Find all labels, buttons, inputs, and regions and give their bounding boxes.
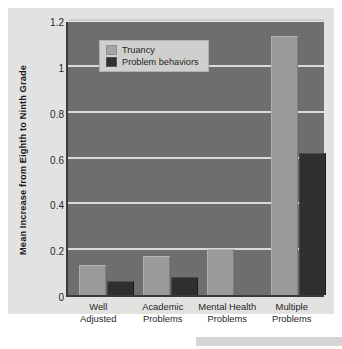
gridline [68,19,324,21]
y-tick-label: 0.6 [18,154,64,165]
legend-label-truancy: Truancy [122,45,155,55]
legend-label-problem-behaviors: Problem behaviors [122,57,199,67]
x-tick-label: AcademicProblems [131,301,196,324]
legend: Truancy Problem behaviors [99,40,209,72]
bar-truancy [143,256,170,295]
bar-group [260,22,324,295]
x-tick-label-line: Academic [131,301,196,313]
legend-item-truancy: Truancy [106,45,199,55]
y-tick-label: 0.2 [18,246,64,257]
legend-swatch-icon-problem-behaviors [106,57,117,67]
bar-problem-behaviors [107,281,134,295]
bar-truancy [271,36,298,295]
plot-area: Truancy Problem behaviors [66,22,324,297]
x-tick-label-line: Multiple [260,301,325,313]
y-tick-label: 0 [18,292,64,303]
x-tick-label: MultipleProblems [260,301,325,324]
x-axis-tick-labels: WellAdjustedAcademicProblemsMental Healt… [66,301,324,324]
chart-figure: Mean Increase from Eighth to Ninth Grade… [0,0,342,349]
y-tick-label: 1 [18,62,64,73]
bar-problem-behaviors [171,277,198,295]
y-tick-label: 1.2 [18,17,64,28]
legend-item-problem-behaviors: Problem behaviors [106,57,199,67]
bar-truancy [207,249,234,295]
y-axis-tick-labels: 00.20.40.60.811.2 [12,22,64,297]
y-tick-label: 0.4 [18,200,64,211]
legend-swatch-icon-truancy [106,45,117,55]
bar-problem-behaviors [299,153,326,295]
x-tick-label-line: Problems [131,313,196,325]
x-tick-label-line: Well [66,301,131,313]
x-tick-label-line: Problems [260,313,325,325]
x-tick-label: WellAdjusted [66,301,131,324]
x-tick-label: Mental HealthProblems [195,301,260,324]
x-tick-label-line: Adjusted [66,313,131,325]
footer-rule [196,337,342,346]
bar-truancy [79,265,106,295]
x-tick-label-line: Mental Health [195,301,260,313]
y-tick-label: 0.8 [18,108,64,119]
x-tick-label-line: Problems [195,313,260,325]
